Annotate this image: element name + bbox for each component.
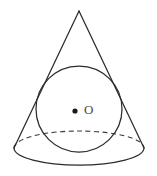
base-ellipse-front-solid	[14, 148, 144, 165]
geometry-figure: O	[0, 0, 157, 176]
cone-with-inscribed-sphere-drawing: O	[0, 0, 157, 176]
sphere-center-label: O	[84, 102, 93, 117]
cone-right-slant-line	[79, 11, 144, 148]
inscribed-sphere-circle	[36, 66, 122, 152]
sphere-center-dot	[72, 108, 77, 113]
cone-left-slant-line	[14, 11, 79, 148]
base-ellipse-back-dashed	[14, 131, 144, 148]
